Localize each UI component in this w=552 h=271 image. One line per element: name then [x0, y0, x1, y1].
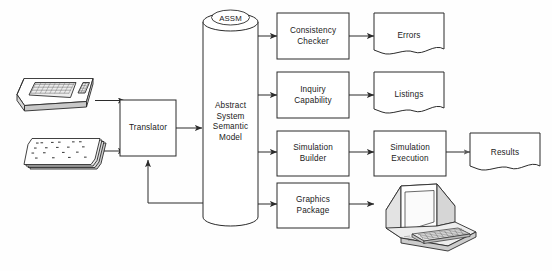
simulation-execution-box	[374, 131, 446, 176]
inquiry-capability-box	[277, 72, 349, 118]
keyboard-terminal-input	[17, 79, 93, 112]
edge-assm-feedback-to-translator	[148, 160, 204, 203]
assm-cylinder	[203, 10, 258, 226]
errors-document	[374, 13, 444, 54]
results-document	[470, 133, 540, 170]
simulation-builder-box	[277, 131, 349, 176]
graphics-package-box	[277, 183, 349, 228]
diagram-canvas: Translator ASSM Abstract System Semantic…	[0, 0, 552, 271]
listings-document	[374, 72, 444, 113]
diagram-vector-layer	[0, 0, 552, 271]
crt-terminal-output	[386, 184, 476, 251]
consistency-checker-box	[277, 13, 349, 59]
translator-box	[120, 100, 176, 156]
punched-card-deck	[24, 139, 106, 170]
